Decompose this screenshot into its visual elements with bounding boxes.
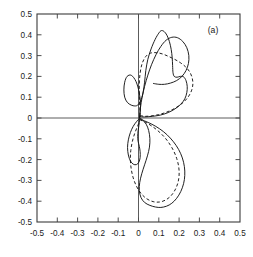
y-tick-label: 0.5 bbox=[21, 10, 33, 19]
x-tick-label: 0.1 bbox=[153, 229, 165, 238]
polar-scattering-plot: -0.5-0.4-0.3-0.2-0.100.10.20.30.40.5 0.5… bbox=[0, 0, 253, 257]
x-tick-label: 0.3 bbox=[194, 229, 206, 238]
x-tick-label: 0.5 bbox=[234, 229, 246, 238]
y-tick-label: 0.3 bbox=[21, 52, 33, 61]
curve-solid-curve bbox=[124, 31, 187, 208]
x-tick-label: 0 bbox=[136, 229, 141, 238]
curve-solid-curve-secondary-lobe bbox=[140, 37, 189, 116]
y-tick-label: -0.3 bbox=[18, 176, 33, 185]
x-tick-label: -0.3 bbox=[71, 229, 86, 238]
x-tick-label: -0.1 bbox=[111, 229, 126, 238]
y-tick-label: 0.2 bbox=[21, 72, 33, 81]
y-tick-label: -0.1 bbox=[18, 135, 33, 144]
x-tick-labels-group: -0.5-0.4-0.3-0.2-0.100.10.20.30.40.5 bbox=[30, 229, 246, 238]
figure-panel-a: -0.5-0.4-0.3-0.2-0.100.10.20.30.40.5 0.5… bbox=[0, 0, 253, 257]
x-tick-label: 0.4 bbox=[214, 229, 226, 238]
y-tick-label: -0.5 bbox=[18, 218, 33, 227]
y-tick-label: -0.4 bbox=[18, 197, 33, 206]
x-tick-label: 0.2 bbox=[173, 229, 185, 238]
y-tick-labels-group: 0.50.40.30.20.10-0.1-0.2-0.3-0.4-0.5 bbox=[18, 10, 33, 227]
y-tick-label: -0.2 bbox=[18, 156, 33, 165]
x-tick-label: -0.5 bbox=[30, 229, 45, 238]
y-tick-label: 0 bbox=[27, 114, 32, 123]
y-tick-label: 0.1 bbox=[21, 93, 33, 102]
x-tick-label: -0.2 bbox=[91, 229, 106, 238]
x-tick-label: -0.4 bbox=[50, 229, 65, 238]
panel-label: (a) bbox=[208, 25, 219, 35]
curves-group bbox=[124, 31, 193, 208]
y-tick-label: 0.4 bbox=[21, 31, 33, 40]
